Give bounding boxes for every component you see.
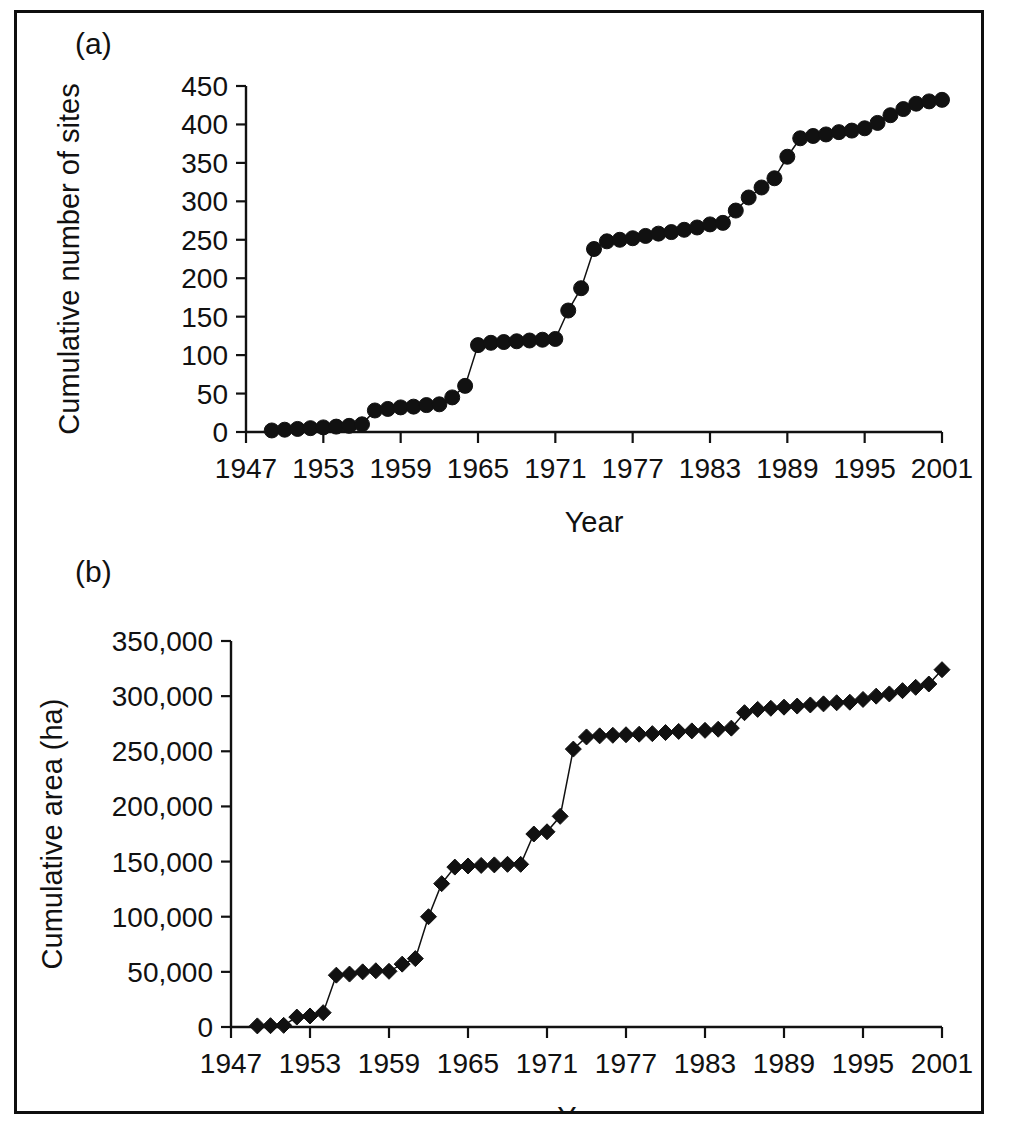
- data-point-marker: [754, 180, 769, 195]
- x-tick-label: 1965: [437, 1048, 499, 1079]
- x-tick-label: 1965: [447, 453, 509, 484]
- y-tick-label: 400: [181, 109, 228, 140]
- data-point-marker: [855, 691, 871, 707]
- y-tick-label: 50,000: [127, 957, 213, 988]
- x-tick-label: 1947: [215, 453, 277, 484]
- x-tick-label: 1989: [753, 1048, 815, 1079]
- y-tick-label: 0: [212, 417, 228, 448]
- x-tick-label: 1953: [279, 1048, 341, 1079]
- x-tick-label: 1983: [679, 453, 741, 484]
- y-tick-label: 350,000: [112, 626, 213, 657]
- x-tick-label: 1959: [370, 453, 432, 484]
- data-point-marker: [434, 876, 450, 892]
- panel-label-a: (a): [75, 27, 112, 61]
- data-point-marker: [767, 171, 782, 186]
- data-point-marker: [870, 115, 885, 130]
- y-tick-label: 200: [181, 263, 228, 294]
- x-tick-label: 1995: [834, 453, 896, 484]
- data-point-marker: [302, 1008, 318, 1024]
- x-tick-label: 2001: [911, 453, 973, 484]
- series-line: [272, 100, 942, 431]
- data-point-marker: [342, 966, 358, 982]
- x-axis-title: Year: [557, 1101, 616, 1111]
- y-tick-label: 0: [197, 1012, 213, 1043]
- data-point-marker: [421, 909, 437, 925]
- x-tick-label: 1977: [595, 1048, 657, 1079]
- x-axis-title: Year: [565, 506, 624, 538]
- data-point-marker: [458, 378, 473, 393]
- x-tick-label: 1995: [832, 1048, 894, 1079]
- data-point-marker: [587, 242, 602, 257]
- data-point-marker: [513, 856, 529, 872]
- chart-panel-b: (b) 050,000100,000150,000200,000250,0003…: [17, 541, 981, 1111]
- chart-panel-a: (a) 050100150200250300350400450194719531…: [17, 13, 981, 553]
- x-tick-label: 1971: [516, 1048, 578, 1079]
- data-point-marker: [780, 149, 795, 164]
- x-tick-label: 1989: [756, 453, 818, 484]
- figure-border: (a) 050100150200250300350400450194719531…: [14, 10, 984, 1114]
- y-tick-label: 150,000: [112, 847, 213, 878]
- data-point-marker: [935, 92, 950, 107]
- data-point-marker: [881, 686, 897, 702]
- x-tick-label: 1959: [358, 1048, 420, 1079]
- y-tick-label: 100: [181, 340, 228, 371]
- data-point-marker: [842, 694, 858, 710]
- y-tick-label: 450: [181, 71, 228, 102]
- data-point-marker: [381, 963, 397, 979]
- x-tick-label: 1983: [674, 1048, 736, 1079]
- x-tick-label: 1971: [524, 453, 586, 484]
- y-axis-title: Cumulative area (ha): [36, 699, 68, 970]
- y-tick-label: 100,000: [112, 902, 213, 933]
- data-point-marker: [355, 417, 370, 432]
- cumulative-sites-chart: 0501001502002503003504004501947195319591…: [17, 13, 981, 553]
- data-point-marker: [895, 683, 911, 699]
- data-point-marker: [445, 390, 460, 405]
- data-point-marker: [868, 688, 884, 704]
- data-point-marker: [276, 1017, 292, 1033]
- x-tick-label: 1977: [602, 453, 664, 484]
- y-tick-label: 300,000: [112, 681, 213, 712]
- x-tick-label: 1953: [292, 453, 354, 484]
- y-tick-label: 150: [181, 302, 228, 333]
- x-tick-label: 2001: [911, 1048, 973, 1079]
- y-tick-label: 350: [181, 148, 228, 179]
- data-point-marker: [741, 190, 756, 205]
- x-tick-label: 1947: [200, 1048, 262, 1079]
- y-axis-title: Cumulative number of sites: [53, 83, 85, 434]
- cumulative-area-chart: 050,000100,000150,000200,000250,000300,0…: [17, 541, 981, 1111]
- data-point-marker: [315, 1005, 331, 1021]
- data-point-marker: [561, 303, 576, 318]
- data-point-marker: [548, 331, 563, 346]
- y-tick-label: 200,000: [112, 791, 213, 822]
- y-tick-label: 300: [181, 186, 228, 217]
- data-point-marker: [728, 203, 743, 218]
- y-tick-label: 250: [181, 225, 228, 256]
- data-point-marker: [574, 281, 589, 296]
- data-point-marker: [715, 215, 730, 230]
- data-point-marker: [908, 679, 924, 695]
- y-tick-label: 250,000: [112, 736, 213, 767]
- data-point-marker: [526, 826, 542, 842]
- y-tick-label: 50: [197, 379, 228, 410]
- panel-label-b: (b): [75, 555, 112, 589]
